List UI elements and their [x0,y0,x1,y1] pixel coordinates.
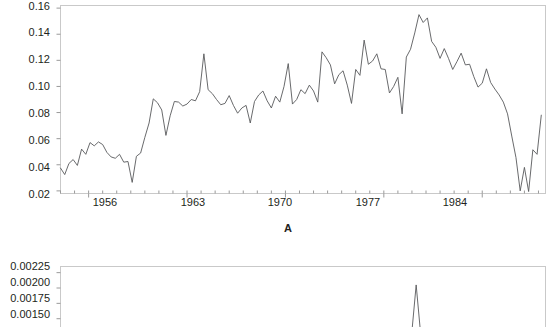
chart-panel-a: 0.16 0.14 0.12 0.10 0.08 0.06 0.04 0.02 … [0,0,558,246]
panel-b-series-line [61,285,542,327]
panel-a-series-line [61,15,542,192]
chart-panel-b: 0.00225 0.00200 0.00175 0.00150 [0,256,558,327]
panel-b-plot [0,256,558,327]
figure-container: 0.16 0.14 0.12 0.10 0.08 0.06 0.04 0.02 … [0,0,558,327]
panel-a-plot [0,0,558,246]
panel-a-frame [61,6,546,194]
panel-b-frame [61,267,546,327]
